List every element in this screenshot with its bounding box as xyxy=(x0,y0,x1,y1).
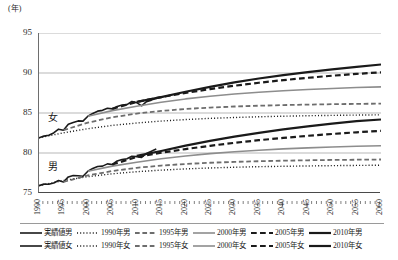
legend-label: 1990年女 xyxy=(101,242,130,250)
legend-item[interactable]: 1990年女 xyxy=(77,242,130,250)
legend-swatch xyxy=(135,243,157,249)
legend-label: 2005年男 xyxy=(275,229,304,237)
annotation-female: 女 xyxy=(48,113,58,123)
legend-swatch xyxy=(193,243,215,249)
x-axis-tick-label: 2015 xyxy=(156,199,164,215)
x-axis: 1990199520002005201020152020202520302035… xyxy=(38,193,380,223)
series-line xyxy=(63,159,381,181)
x-axis-tick-label: 2010 xyxy=(132,199,140,215)
annotation-male: 男 xyxy=(48,162,58,172)
legend-label: 2010年男 xyxy=(333,229,362,237)
x-axis-tick-label: 2040 xyxy=(278,199,286,215)
legend-label: 1990年男 xyxy=(101,229,130,237)
legend-swatch xyxy=(309,230,331,236)
y-axis-tick-label: 85 xyxy=(4,108,32,117)
y-axis-tick-label: 90 xyxy=(4,68,32,77)
legend-swatch xyxy=(77,230,99,236)
chart-root: (年) 9590858075 女 男 199019952000200520102… xyxy=(0,0,398,260)
plot-area xyxy=(38,33,380,193)
legend-swatch xyxy=(77,243,99,249)
series-line xyxy=(39,165,381,185)
x-axis-tick-label: 1990 xyxy=(34,199,42,215)
legend-label: 2010年女 xyxy=(333,242,362,250)
legend-item[interactable]: 2010年男 xyxy=(309,229,362,237)
legend-swatch xyxy=(251,230,273,236)
x-axis-tick-label: 1995 xyxy=(58,199,66,215)
x-axis-tick-label: 2000 xyxy=(83,199,91,215)
x-axis-tick-label: 2030 xyxy=(229,199,237,215)
x-axis-tick-label: 2055 xyxy=(352,199,360,215)
legend-swatch xyxy=(251,243,273,249)
legend-label: 実績値女 xyxy=(44,242,72,250)
x-axis-tick-label: 2020 xyxy=(181,199,189,215)
y-axis-tick-label: 95 xyxy=(4,28,32,37)
y-axis-tick-label: 75 xyxy=(4,188,32,197)
y-axis-tick-label: 80 xyxy=(4,148,32,157)
x-axis-tick-label: 2045 xyxy=(303,199,311,215)
legend-item[interactable]: 2005年男 xyxy=(251,229,304,237)
legend-swatch xyxy=(309,243,331,249)
legend-item[interactable]: 1995年男 xyxy=(135,229,188,237)
legend-label: 2000年男 xyxy=(217,229,246,237)
x-axis-tick-label: 2035 xyxy=(254,199,262,215)
legend-label: 2000年女 xyxy=(217,242,246,250)
legend-item[interactable]: 実績値男 xyxy=(20,229,72,237)
legend-row-male: 実績値男1990年男1995年男2000年男2005年男2010年男 xyxy=(20,226,384,239)
legend-item[interactable]: 1995年女 xyxy=(135,242,188,250)
legend-item[interactable]: 2005年女 xyxy=(251,242,304,250)
legend-label: 1995年男 xyxy=(159,229,188,237)
legend-label: 1995年女 xyxy=(159,242,188,250)
legend-item[interactable]: 2000年女 xyxy=(193,242,246,250)
legend-swatch xyxy=(135,230,157,236)
legend-swatch xyxy=(20,243,42,249)
legend-item[interactable]: 1990年男 xyxy=(77,229,130,237)
legend-swatch xyxy=(193,230,215,236)
x-axis-tick-label: 2050 xyxy=(327,199,335,215)
legend-item[interactable]: 2000年男 xyxy=(193,229,246,237)
legend-row-female: 実績値女1990年女1995年女2000年女2005年女2010年女 xyxy=(20,239,384,252)
x-axis-tick-label: 2005 xyxy=(107,199,115,215)
legend-item[interactable]: 実績値女 xyxy=(20,242,72,250)
chart-legend: 実績値男1990年男1995年男2000年男2005年男2010年男 実績値女1… xyxy=(20,223,384,255)
series-canvas xyxy=(39,33,381,193)
y-axis-tick-labels: 9590858075 xyxy=(4,0,36,200)
legend-item[interactable]: 2010年女 xyxy=(309,242,362,250)
x-axis-tick-label: 2060 xyxy=(376,199,384,215)
legend-swatch xyxy=(20,230,42,236)
legend-label: 実績値男 xyxy=(44,229,72,237)
x-axis-tick-label: 2025 xyxy=(205,199,213,215)
legend-label: 2005年女 xyxy=(275,242,304,250)
